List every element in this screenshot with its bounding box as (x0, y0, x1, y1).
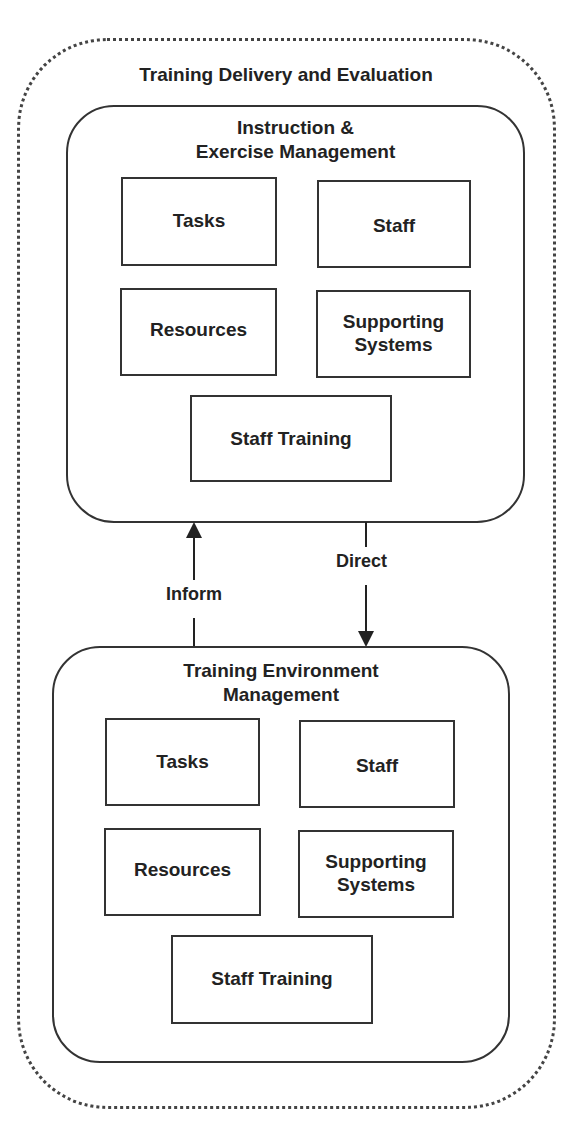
box-label: Resources (134, 858, 231, 914)
box-supporting-systems: Supporting Systems (298, 830, 454, 918)
box-label-line2: Systems (354, 333, 432, 356)
box-tasks: Tasks (121, 177, 277, 266)
box-supporting-systems: Supporting Systems (316, 290, 471, 378)
box-staff: Staff (299, 720, 455, 808)
box-resources: Resources (120, 288, 277, 376)
direct-line-lower (365, 585, 367, 632)
group-title-line1: Training Environment (52, 659, 510, 683)
group-title-line2: Management (52, 683, 510, 707)
box-label-line1: Supporting (343, 310, 444, 333)
box-label-line1: Supporting (325, 850, 426, 873)
box-label: Resources (150, 318, 247, 374)
inform-line-upper (193, 536, 195, 580)
group-title-instruction-exercise: Instruction & Exercise Management (66, 116, 525, 164)
box-label: Staff (356, 754, 398, 806)
box-staff-training: Staff Training (190, 395, 392, 482)
box-label: Staff Training (211, 967, 332, 1022)
direct-arrowhead-icon (358, 631, 374, 647)
direct-label: Direct (336, 551, 387, 572)
box-staff-training: Staff Training (171, 935, 373, 1024)
group-title-line1: Instruction & (66, 116, 525, 140)
box-label: Staff Training (230, 427, 351, 480)
box-label: Tasks (173, 209, 225, 264)
box-label-line2: Systems (337, 873, 415, 896)
inform-line-lower (193, 618, 195, 647)
box-resources: Resources (104, 828, 261, 916)
outer-title: Training Delivery and Evaluation (0, 64, 572, 86)
box-tasks: Tasks (105, 718, 260, 806)
box-label: Tasks (156, 750, 208, 804)
group-title-training-environment: Training Environment Management (52, 659, 510, 707)
inform-label: Inform (166, 584, 222, 605)
box-staff: Staff (317, 180, 471, 268)
box-label: Staff (373, 214, 415, 266)
direct-line-upper (365, 522, 367, 547)
group-title-line2: Exercise Management (66, 140, 525, 164)
